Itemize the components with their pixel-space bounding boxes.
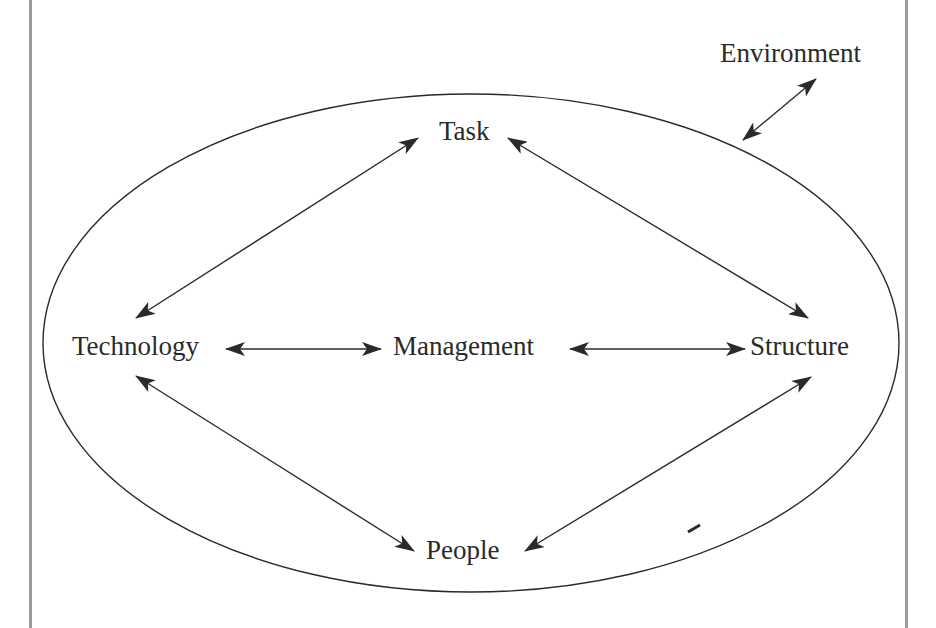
ellipse-tick-mark	[688, 525, 700, 532]
node-structure: Structure	[750, 333, 849, 360]
node-environment: Environment	[720, 40, 861, 67]
edge-structure-people	[525, 377, 811, 551]
node-people: People	[426, 537, 500, 564]
node-technology: Technology	[72, 333, 199, 360]
edge-environment-boundary	[743, 79, 816, 140]
diagram-canvas	[0, 0, 936, 628]
node-task: Task	[439, 118, 490, 145]
node-management: Management	[393, 333, 534, 360]
edge-task-structure	[508, 138, 808, 318]
edge-task-technology	[136, 138, 418, 318]
diagram-page: Environment Task Technology Management S…	[0, 0, 936, 628]
